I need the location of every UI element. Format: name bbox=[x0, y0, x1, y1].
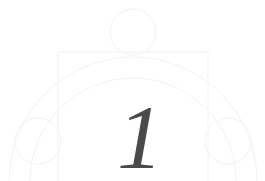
chapter-numeral-layer: 1 bbox=[0, 0, 265, 181]
chapter-number: 1 bbox=[117, 86, 163, 181]
chapter-opener-ornament: 1 bbox=[0, 0, 265, 181]
